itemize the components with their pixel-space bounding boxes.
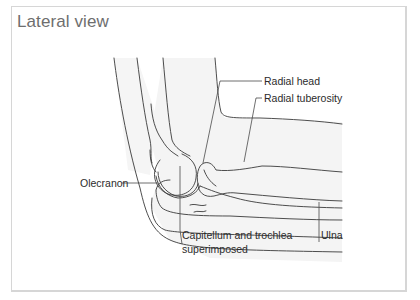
label-capitellum-line1: Capitellum and trochlea [182,229,292,242]
label-radial-head: Radial head [264,75,320,88]
label-capitellum-line2: superimposed [182,243,248,256]
label-radial-tuberosity: Radial tuberosity [264,92,342,105]
label-ulna: Ulna [321,229,343,242]
label-olecranon: Olecranon [80,177,128,190]
